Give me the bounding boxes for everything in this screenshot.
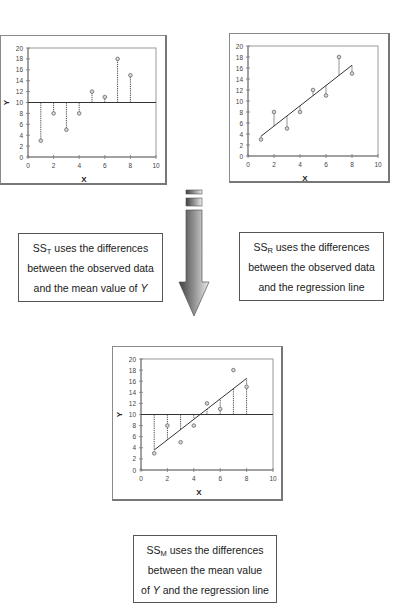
data-point [129, 73, 133, 77]
ss-m-scatter-plot: 024681012141618200246810XY [113, 347, 284, 502]
y-tick-label: 10 [16, 99, 24, 106]
ss-m-line3-pre: of [141, 584, 153, 596]
data-point [116, 57, 120, 61]
ss-t-chart-panel: 024681012141618200246810XY [0, 35, 167, 185]
ss-t-caption-line-1: SST uses the differences [19, 238, 162, 258]
plot-area-frame [248, 46, 378, 156]
data-point [324, 94, 328, 98]
y-tick-label: 8 [239, 109, 243, 116]
data-point [152, 452, 156, 456]
ss-t-line1-text: uses the differences [51, 242, 148, 254]
ss-t-scatter-plot: 024681012141618200246810XY [1, 36, 168, 186]
ss-m-line3-post: and the regression line [160, 584, 269, 596]
y-tick-label: 14 [236, 76, 244, 83]
ss-r-caption-line-2: between the observed data [240, 257, 383, 277]
y-tick-label: 8 [19, 110, 23, 117]
ss-m-symbol: SS [147, 544, 161, 556]
data-point [65, 128, 69, 132]
y-tick-label: 12 [16, 88, 24, 95]
y-tick-label: 18 [129, 367, 137, 374]
y-axis-label: Y [2, 99, 11, 105]
arrow-tail-bar [186, 198, 202, 206]
x-tick-label: 4 [192, 475, 196, 482]
data-point [337, 55, 341, 59]
x-tick-label: 6 [103, 162, 107, 169]
data-point [52, 112, 56, 116]
ss-m-caption-line-1: SSM uses the differences [134, 540, 276, 560]
x-tick-label: 6 [324, 161, 328, 168]
y-tick-label: 2 [19, 143, 23, 150]
data-point [218, 407, 222, 411]
ss-m-line1-text: uses the differences [167, 544, 264, 556]
ss-t-caption-line-3: and the mean value of Y [19, 278, 162, 298]
y-tick-label: 18 [16, 55, 24, 62]
y-tick-label: 18 [236, 54, 244, 61]
y-tick-label: 6 [19, 121, 23, 128]
x-tick-label: 8 [350, 161, 354, 168]
y-tick-label: 10 [236, 98, 244, 105]
x-tick-label: 10 [374, 161, 382, 168]
ss-r-chart-panel: 024681012141618200246810XY [229, 33, 390, 183]
ss-r-line1-text: uses the differences [273, 241, 370, 253]
y-axis-label: Y [230, 98, 231, 104]
y-tick-label: 12 [129, 400, 137, 407]
data-point [298, 110, 302, 114]
data-point [90, 90, 94, 94]
data-point [77, 112, 81, 116]
data-point [103, 95, 107, 99]
x-tick-label: 8 [245, 475, 249, 482]
y-tick-label: 2 [132, 455, 136, 462]
data-point [272, 110, 276, 114]
data-point [285, 127, 289, 131]
data-point [259, 138, 263, 142]
y-tick-label: 0 [239, 153, 243, 160]
y-tick-label: 4 [19, 132, 23, 139]
y-tick-label: 8 [132, 422, 136, 429]
data-point [311, 88, 315, 92]
y-tick-label: 20 [129, 356, 137, 363]
y-tick-label: 10 [129, 411, 137, 418]
data-point [166, 424, 170, 428]
data-point [205, 402, 209, 406]
x-tick-label: 4 [77, 162, 81, 169]
ss-r-caption-line-3: and the regression line [240, 277, 383, 297]
y-tick-label: 0 [132, 467, 136, 474]
y-tick-label: 20 [16, 45, 24, 52]
ss-m-chart-panel: 024681012141618200246810XY [112, 346, 283, 501]
arrow-shaft-and-head [179, 210, 209, 316]
x-tick-label: 6 [218, 475, 222, 482]
x-tick-label: 8 [129, 162, 133, 169]
x-tick-label: 0 [139, 475, 143, 482]
ss-t-line3-text: and the mean value of [34, 282, 141, 294]
ss-m-variable-y: Y [153, 584, 160, 596]
y-tick-label: 20 [236, 43, 244, 50]
ss-r-symbol: SS [253, 241, 267, 253]
x-tick-label: 0 [246, 161, 250, 168]
data-point [179, 440, 183, 444]
y-tick-label: 6 [132, 433, 136, 440]
data-point [39, 139, 43, 143]
arrow-tail-small-bar [186, 190, 202, 194]
ss-r-caption-line-1: SSR uses the differences [240, 237, 383, 257]
ss-t-variable-y: Y [140, 282, 147, 294]
y-tick-label: 14 [16, 77, 24, 84]
data-point [245, 385, 249, 389]
x-axis-label: X [81, 175, 87, 184]
y-axis-label: Y [115, 411, 124, 417]
data-point [232, 368, 236, 372]
ss-m-caption-line-3: of Y and the regression line [134, 580, 276, 600]
y-tick-label: 4 [132, 444, 136, 451]
x-tick-label: 2 [166, 475, 170, 482]
y-tick-label: 16 [236, 65, 244, 72]
y-tick-label: 2 [239, 142, 243, 149]
ss-r-caption-box: SSR uses the differences between the obs… [239, 232, 384, 301]
x-tick-label: 4 [298, 161, 302, 168]
y-tick-label: 12 [236, 87, 244, 94]
data-point [350, 72, 354, 76]
ss-t-caption-box: SST uses the differences between the obs… [18, 233, 163, 302]
ss-r-scatter-plot: 024681012141618200246810XY [230, 34, 391, 184]
x-tick-label: 10 [269, 475, 277, 482]
y-tick-label: 0 [19, 154, 23, 161]
y-tick-label: 16 [129, 378, 137, 385]
ss-t-caption-line-2: between the observed data [19, 258, 162, 278]
